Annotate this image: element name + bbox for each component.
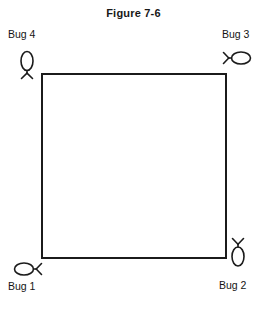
bug-1-label: Bug 1 <box>8 280 35 293</box>
bug-2-label: Bug 2 <box>219 279 246 292</box>
bug-vertical-legs-down-icon <box>17 50 37 80</box>
figure-title: Figure 7-6 <box>0 6 267 20</box>
bug-horizontal-legs-right-icon <box>13 259 45 279</box>
bug-horizontal-legs-left-icon <box>222 48 252 68</box>
square-path-shape <box>41 73 227 259</box>
figure-canvas: Figure 7-6 Bug 4 Bug 3 Bug 2 <box>0 0 267 312</box>
bug-vertical-legs-up-icon <box>228 236 248 268</box>
bug-4-label: Bug 4 <box>8 28 35 41</box>
bug-3-label: Bug 3 <box>222 28 249 41</box>
